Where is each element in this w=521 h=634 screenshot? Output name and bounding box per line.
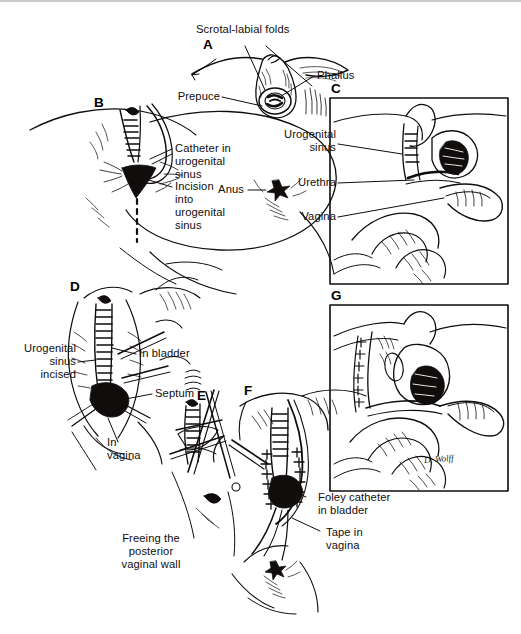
label-catheter-in-urogenital-sinus: Catheter in urogenital sinus bbox=[175, 142, 231, 181]
panel-letter-d: D bbox=[70, 279, 80, 294]
panel-letter-e: E bbox=[197, 388, 206, 403]
panel-letter-f: F bbox=[244, 383, 252, 398]
panel-c-artwork bbox=[330, 98, 508, 284]
label-freeing-posterior-vaginal-wall: Freeing the posterior vaginal wall bbox=[96, 532, 206, 571]
label-anus: Anus bbox=[188, 183, 244, 196]
panel-letter-b: B bbox=[94, 95, 104, 110]
label-foley-catheter-in-bladder: Foley catheter in bladder bbox=[318, 491, 390, 517]
panel-letter-g: G bbox=[331, 288, 342, 303]
panel-letter-a: A bbox=[203, 37, 213, 52]
label-in-vagina: In vagina bbox=[107, 436, 141, 462]
panel-letter-c: C bbox=[331, 81, 341, 96]
artist-signature: D. Wolff bbox=[424, 453, 454, 465]
label-urogenital-sinus-incised: Urogenital sinus incised bbox=[6, 342, 76, 381]
label-vagina: Vagina bbox=[258, 210, 336, 223]
label-septum: Septum bbox=[155, 387, 194, 400]
label-urogenital-sinus-c: Urogenital sinus bbox=[258, 128, 336, 154]
panel-g-artwork bbox=[330, 305, 508, 491]
surgical-figure: A B C D E F G Scrotal-labial folds Phall… bbox=[0, 0, 521, 634]
label-phallus: Phallus bbox=[317, 69, 354, 82]
label-tape-in-vagina: Tape in vagina bbox=[326, 526, 363, 552]
illustration-artwork bbox=[0, 2, 521, 634]
label-prepuce: Prepuce bbox=[120, 90, 220, 103]
label-urethra: Urethra bbox=[258, 176, 336, 189]
label-in-bladder: In bladder bbox=[139, 347, 190, 360]
label-scrotal-labial-folds: Scrotal-labial folds bbox=[196, 23, 289, 36]
